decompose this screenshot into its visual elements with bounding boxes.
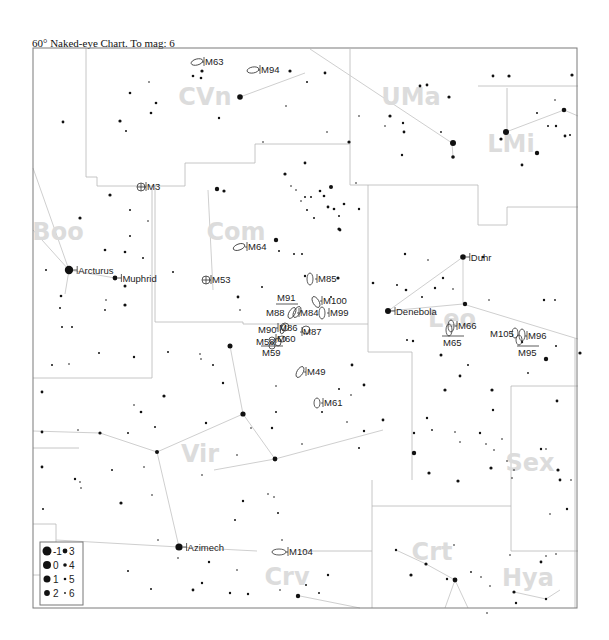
- star: [305, 584, 307, 586]
- star: [442, 277, 444, 279]
- star: [125, 130, 127, 132]
- star: [142, 257, 144, 259]
- star: [547, 125, 549, 127]
- star: [77, 429, 79, 431]
- star: [404, 253, 406, 255]
- star: [493, 449, 495, 451]
- star: [155, 450, 159, 454]
- star: [215, 187, 219, 191]
- star: [540, 561, 543, 564]
- star: [446, 578, 448, 580]
- galaxy-icon: [294, 365, 305, 378]
- legend-mag-label: 0: [53, 560, 59, 571]
- star-dot: [175, 543, 182, 550]
- star: [459, 375, 462, 378]
- star: [521, 164, 524, 167]
- star: [129, 92, 132, 95]
- star: [499, 137, 502, 140]
- star: [61, 326, 63, 328]
- star: [447, 95, 450, 98]
- star-label: Duhr: [471, 252, 492, 263]
- star: [133, 404, 135, 406]
- dso-label: M60: [277, 333, 295, 344]
- star: [192, 589, 195, 592]
- star: [467, 364, 469, 366]
- star: [490, 388, 493, 391]
- legend-dot: [43, 547, 52, 556]
- dso-m85: M85: [307, 273, 336, 285]
- star: [555, 345, 557, 347]
- star: [304, 162, 307, 165]
- star: [535, 151, 539, 155]
- star: [431, 429, 433, 431]
- dso-label: M86: [279, 322, 297, 333]
- star: [240, 411, 245, 416]
- star: [147, 220, 149, 222]
- legend-mag-label: -1: [53, 546, 62, 557]
- star: [154, 426, 156, 428]
- star: [554, 299, 556, 301]
- dso-m99: M99: [319, 307, 348, 319]
- star: [150, 112, 153, 115]
- star: [229, 592, 231, 594]
- star: [453, 544, 455, 546]
- legend-mag-label: 2: [53, 588, 59, 599]
- star: [513, 469, 515, 471]
- star: [452, 288, 454, 290]
- deep-sky-objects: M63M94M3M64M53M85M91M100M88M84M99M90M86M…: [137, 56, 546, 557]
- star: [549, 513, 551, 515]
- star: [108, 193, 111, 196]
- star: [327, 574, 329, 576]
- star: [261, 286, 263, 288]
- star: [273, 457, 278, 462]
- star: [358, 208, 360, 210]
- star: [155, 102, 158, 105]
- star: [119, 501, 122, 504]
- star: [222, 189, 225, 192]
- dso-label: M53: [212, 274, 230, 285]
- constellation-label-sex: Sex: [505, 449, 555, 477]
- star: [570, 479, 572, 481]
- star: [319, 190, 322, 193]
- dso-label: M91: [277, 292, 295, 303]
- dso-m63: M63: [190, 56, 223, 67]
- star: [511, 477, 513, 479]
- star: [396, 284, 398, 286]
- star: [104, 249, 107, 252]
- dso-label: M65: [443, 337, 461, 348]
- star: [426, 417, 428, 419]
- star: [412, 451, 416, 455]
- star: [545, 555, 547, 557]
- star: [426, 84, 429, 87]
- star: [456, 479, 459, 482]
- star: [419, 85, 422, 88]
- star: [453, 578, 458, 583]
- star: [300, 200, 302, 202]
- star: [406, 339, 408, 341]
- star: [509, 554, 511, 556]
- star: [45, 269, 47, 271]
- star: [250, 427, 252, 429]
- star: [555, 553, 557, 555]
- star: [501, 438, 503, 440]
- star: [564, 135, 567, 138]
- star: [480, 576, 482, 578]
- galaxy-icon: [247, 66, 260, 74]
- dso-m3: M3: [137, 181, 160, 192]
- star-label: Arcturus: [78, 265, 114, 276]
- star-label: Muphrid: [122, 273, 156, 284]
- dso-label: M95: [518, 347, 536, 358]
- star: [489, 585, 491, 587]
- legend-mag-label: 4: [69, 560, 75, 571]
- star: [569, 134, 571, 136]
- star: [242, 500, 244, 502]
- star: [556, 400, 559, 403]
- dso-label: M66: [458, 320, 476, 331]
- star: [450, 140, 456, 146]
- star: [59, 307, 61, 309]
- legend-dot: [64, 578, 67, 581]
- star: [212, 364, 214, 366]
- star: [41, 391, 44, 394]
- dso-label: M99: [330, 307, 348, 318]
- star: [277, 512, 279, 514]
